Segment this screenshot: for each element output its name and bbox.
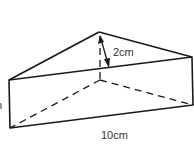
- front-face: [9, 57, 193, 128]
- top-left-edge: [9, 32, 99, 80]
- length-label: 10cm: [101, 130, 128, 141]
- prism-diagram: [0, 0, 194, 157]
- height-label: 2cm: [113, 47, 134, 58]
- hidden-left-edge: [10, 80, 100, 128]
- side-label-partial: n: [0, 100, 2, 111]
- hidden-right-edge: [100, 80, 193, 105]
